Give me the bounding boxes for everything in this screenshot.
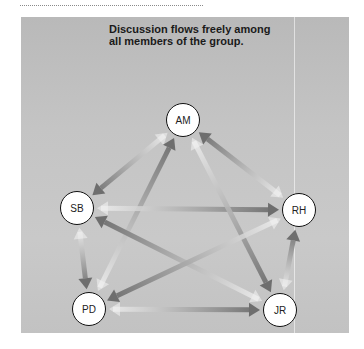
node-am: AM <box>166 103 200 137</box>
node-label: SB <box>70 203 83 214</box>
node-jr: JR <box>263 293 297 327</box>
node-pd: PD <box>72 292 106 326</box>
flow-arrow-jr-to-rh <box>279 230 300 291</box>
node-label: JR <box>274 305 286 316</box>
flow-arrow-sb-to-pd <box>74 228 93 289</box>
node-label: PD <box>82 304 96 315</box>
node-sb: SB <box>60 191 94 225</box>
node-label: AM <box>176 115 191 126</box>
flow-arrows <box>0 0 364 349</box>
flow-arrow-sb-to-rh <box>97 201 279 216</box>
node-rh: RH <box>282 193 316 227</box>
flow-arrow-rh-to-am <box>199 132 283 197</box>
node-label: RH <box>292 205 306 216</box>
flow-arrow-pd-to-jr <box>109 302 260 317</box>
flow-arrow-am-to-sb <box>92 133 167 195</box>
